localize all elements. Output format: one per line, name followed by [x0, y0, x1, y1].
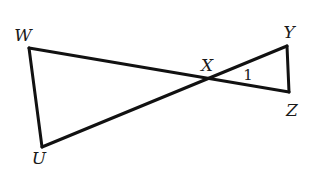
angle-label-1: 1 — [243, 68, 253, 83]
geometry-diagram — [0, 0, 312, 169]
vertex-label-z: Z — [286, 102, 298, 119]
vertex-label-x: X — [201, 57, 213, 74]
segment-wu — [29, 48, 42, 147]
vertex-label-w: W — [14, 27, 31, 44]
vertex-label-y: Y — [283, 24, 294, 41]
vertex-label-u: U — [32, 150, 46, 167]
segment-uy — [42, 46, 287, 147]
segment-yz — [287, 46, 289, 92]
